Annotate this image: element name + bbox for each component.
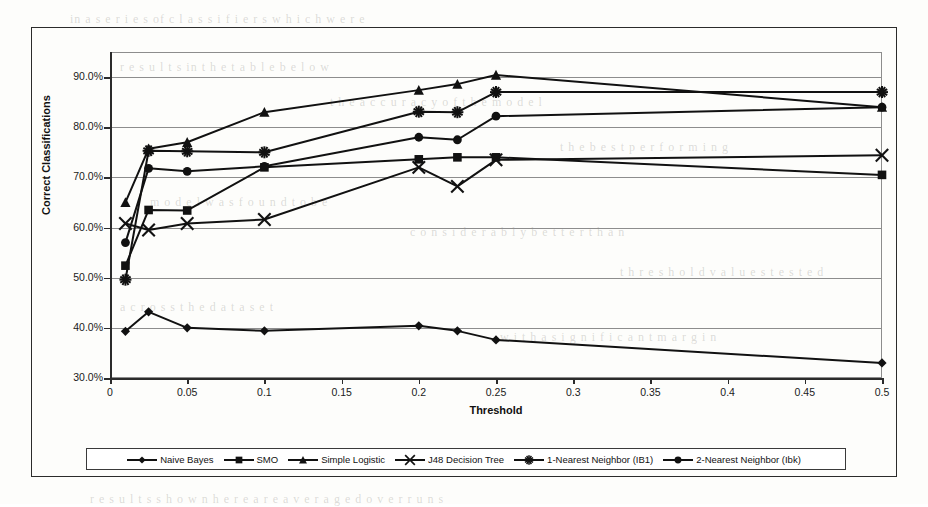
series-line [125, 312, 882, 363]
data-point-asterisk-marker [119, 274, 131, 286]
x-axis-title: Threshold [110, 404, 882, 416]
x-tick-label: 0.3 [566, 386, 581, 398]
y-tick-label: 80.0% [55, 120, 103, 132]
legend-item-simple-logistic[interactable]: Simple Logistic [285, 454, 392, 465]
ghost-text-line: in a s e r i e s of c l a s s i f i e r … [70, 12, 366, 27]
x-tick-mark [882, 378, 884, 384]
chart-legend: Naive BayesSMOSimple LogisticJ48 Decisio… [86, 448, 846, 470]
y-tick-label: 70.0% [55, 170, 103, 182]
data-point-square-marker [878, 171, 887, 180]
legend-marker-asterisk-icon [514, 454, 544, 464]
data-point-square-marker [144, 206, 153, 215]
data-point-asterisk-marker [181, 145, 193, 157]
data-point-x-marker [451, 180, 463, 192]
y-tick-label: 30.0% [55, 371, 103, 383]
x-tick-label: 0.1 [257, 386, 272, 398]
series-line [125, 107, 882, 242]
data-point-asterisk-marker [490, 86, 502, 98]
series-line [125, 75, 882, 202]
data-point-diamond-marker [414, 321, 423, 330]
data-point-square-marker [415, 155, 424, 164]
series-4 [119, 149, 888, 236]
series-line [125, 92, 882, 280]
data-point-diamond-marker [260, 326, 269, 335]
x-tick-label: 0.25 [486, 386, 506, 398]
x-tick-label: 0.4 [720, 386, 735, 398]
series-line [125, 157, 882, 265]
legend-item-label: 1-Nearest Neighbor (IB1) [547, 454, 653, 465]
y-tick-label: 90.0% [55, 70, 103, 82]
data-point-diamond-marker [139, 456, 146, 463]
legend-marker-diamond-icon [127, 454, 157, 464]
y-tick-label: 60.0% [55, 221, 103, 233]
x-tick-label: 0.5 [875, 386, 890, 398]
data-point-circle-marker [260, 162, 269, 171]
data-point-asterisk-marker [413, 106, 425, 118]
legend-item-j48-decision-tree[interactable]: J48 Decision Tree [392, 454, 511, 465]
legend-item-label: 2-Nearest Neighbor (Ibk) [696, 454, 801, 465]
data-point-circle-marker [414, 133, 423, 142]
x-tick-label: 0.2 [411, 386, 426, 398]
y-tick-label: 40.0% [55, 321, 103, 333]
data-point-triangle-marker [120, 197, 130, 207]
legend-marker-square-icon [224, 454, 254, 464]
legend-item-2-nearest-neighbor-ibk[interactable]: 2-Nearest Neighbor (Ibk) [660, 454, 808, 465]
x-tick-label: 0 [107, 386, 113, 398]
data-point-circle-marker [121, 238, 130, 247]
legend-item-label: SMO [257, 454, 279, 465]
legend-item-label: Simple Logistic [321, 454, 385, 465]
series-line [125, 155, 882, 230]
legend-item-1-nearest-neighbor-ib1[interactable]: 1-Nearest Neighbor (IB1) [511, 454, 660, 465]
legend-item-label: Naive Bayes [160, 454, 213, 465]
data-point-circle-marker [453, 135, 462, 144]
data-point-square-marker [453, 153, 462, 162]
y-tick-label: 50.0% [55, 271, 103, 283]
data-point-square-marker [183, 206, 192, 215]
legend-marker-circle-icon [663, 454, 693, 464]
legend-item-label: J48 Decision Tree [428, 454, 504, 465]
series-plot-layer [110, 52, 882, 379]
x-tick-label: 0.15 [331, 386, 351, 398]
data-point-circle-marker [492, 112, 501, 121]
data-point-asterisk-marker [524, 455, 533, 464]
data-point-circle-marker [144, 164, 153, 173]
data-point-asterisk-marker [451, 106, 463, 118]
data-point-diamond-marker [491, 335, 500, 344]
data-point-circle-marker [878, 103, 887, 112]
ghost-text-line: r e s u l t s s h o w n h e r e a r e a … [90, 492, 444, 507]
legend-marker-triangle-icon [288, 454, 318, 464]
legend-item-naive-bayes[interactable]: Naive Bayes [124, 454, 220, 465]
data-point-diamond-marker [453, 326, 462, 335]
data-point-square-marker [235, 457, 242, 464]
legend-item-smo[interactable]: SMO [221, 454, 286, 465]
data-point-asterisk-marker [258, 146, 270, 158]
series-3 [120, 70, 887, 207]
series-1 [121, 307, 887, 367]
x-tick-label: 0.05 [177, 386, 197, 398]
data-point-asterisk-marker [143, 145, 155, 157]
data-point-circle-marker [675, 457, 682, 464]
series-6 [121, 103, 886, 247]
data-point-diamond-marker [183, 323, 192, 332]
legend-marker-x-icon [395, 454, 425, 464]
series-2 [121, 153, 886, 270]
y-axis-title: Correct Classifications [40, 95, 52, 215]
x-tick-label: 0.35 [640, 386, 660, 398]
x-tick-label: 0.45 [795, 386, 815, 398]
data-point-circle-marker [183, 167, 192, 176]
